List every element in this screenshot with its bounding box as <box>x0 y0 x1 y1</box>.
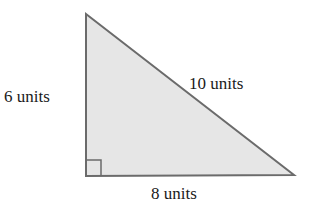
right-triangle-diagram: 6 units 10 units 8 units <box>0 0 313 211</box>
hypotenuse-label: 10 units <box>189 74 243 93</box>
bottom-side-label: 8 units <box>151 184 197 203</box>
left-side-label: 6 units <box>4 87 50 106</box>
triangle-shape <box>86 14 294 176</box>
